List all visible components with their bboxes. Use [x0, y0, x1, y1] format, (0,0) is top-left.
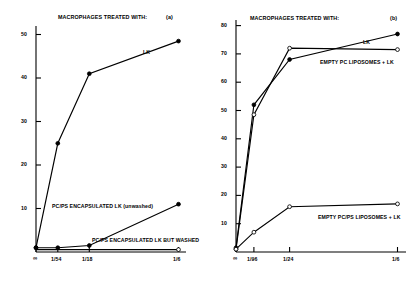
y-tick-label-b-50: 50 [221, 108, 227, 113]
series-markers-washed-a [177, 248, 181, 252]
x-tick-label-b-inf: ∞ [233, 255, 237, 261]
y-tick-label-a-20: 20 [21, 162, 27, 167]
x-tick-label-a-1-6: 1/6 [173, 257, 181, 262]
series-line-pcps-b [236, 204, 398, 249]
panel-b-label: (b) [390, 16, 397, 21]
panel-a-title: MACROPHAGES TREATED WITH: [58, 15, 147, 20]
y-tick-label-b-40: 40 [221, 136, 227, 141]
series-label-lk-a: LK [143, 50, 150, 55]
series-label-pcps-b: EMPTY PC/PS LIPOSOMES + LK [318, 215, 401, 220]
series-markers-pc-b [234, 46, 399, 251]
x-tick-label-a-inf: ∞ [33, 255, 37, 261]
y-tick-label-a-30: 30 [21, 119, 27, 124]
y-tick-label-b-80: 80 [221, 23, 227, 28]
x-tick-marks-b [236, 247, 398, 252]
y-tick-label-b-60: 60 [221, 79, 227, 84]
chart-panel-b: MACROPHAGES TREATED WITH: (b) 80 70 60 5… [210, 0, 419, 285]
x-tick-label-b-1-96: 1/96 [247, 257, 258, 262]
y-tick-label-a-10: 10 [21, 206, 27, 211]
series-markers-pcps-b [234, 202, 399, 251]
y-tick-label-b-30: 30 [221, 164, 227, 169]
x-tick-label-b-1-24: 1/24 [283, 257, 294, 262]
y-tick-marks-a [36, 35, 41, 209]
y-tick-label-b-10: 10 [221, 221, 227, 226]
figure-root: MACROPHAGES TREATED WITH: (a) 50 40 30 2… [0, 0, 419, 285]
y-tick-label-a-50: 50 [21, 32, 27, 37]
panel-a-label: (a) [166, 15, 173, 20]
x-tick-label-b-1-6: 1/6 [392, 257, 400, 262]
panel-b-plot [210, 0, 419, 285]
x-tick-label-a-1-54: 1/54 [51, 257, 62, 262]
y-tick-label-b-70: 70 [221, 51, 227, 56]
series-label-pc-b: EMPTY PC LIPOSOMES + LK [320, 60, 394, 65]
chart-panel-a: MACROPHAGES TREATED WITH: (a) 50 40 30 2… [0, 0, 210, 285]
y-tick-label-a-40: 40 [21, 75, 27, 80]
series-label-lk-b: LK [363, 40, 370, 45]
series-label-unwashed-a: PC/PS ENCAPSULATED LK (unwashed) [52, 204, 153, 209]
y-tick-marks-b [236, 26, 241, 224]
panel-b-title: MACROPHAGES TREATED WITH: [250, 16, 339, 21]
x-tick-label-a-1-18: 1/18 [82, 257, 93, 262]
series-markers-lk-a [34, 39, 180, 249]
series-label-washed-a: PC/PS ENCAPSULATED LK BUT WASHED [92, 238, 199, 243]
y-tick-label-b-20: 20 [221, 192, 227, 197]
